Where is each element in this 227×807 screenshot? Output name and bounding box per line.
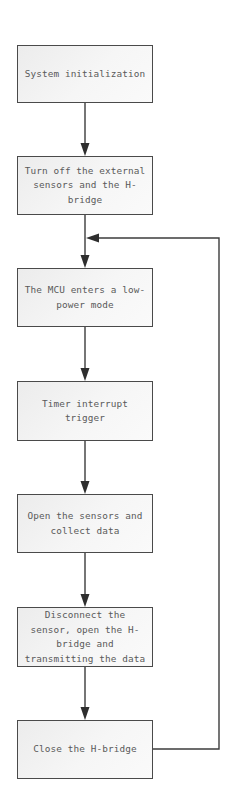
step-label: Timer interrupt trigger xyxy=(42,397,128,426)
step-label: System initialization xyxy=(25,67,146,82)
step-system-initialization: System initialization xyxy=(17,45,153,103)
step-label: Open the sensors and collect data xyxy=(28,509,143,538)
step-label: Turn off the external sensors and the H-… xyxy=(25,164,146,208)
arrow-n1-n2 xyxy=(81,103,90,156)
arrow-n2-n3 xyxy=(81,215,90,268)
arrow-n4-n5 xyxy=(81,441,90,494)
step-label: Close the H-bridge xyxy=(33,742,136,757)
step-transmit-data: Disconnect the sensor, open the H- bridg… xyxy=(17,607,153,667)
step-close-h-bridge: Close the H-bridge xyxy=(17,720,153,779)
arrow-n6-n7 xyxy=(81,667,90,720)
arrow-n5-n6 xyxy=(81,553,90,607)
step-timer-interrupt: Timer interrupt trigger xyxy=(17,381,153,441)
arrow-n3-n4 xyxy=(81,327,90,381)
step-low-power-mode: The MCU enters a low- power mode xyxy=(17,268,153,327)
step-turn-off-sensors: Turn off the external sensors and the H-… xyxy=(17,156,153,215)
flowchart: System initialization Turn off the exter… xyxy=(0,0,227,807)
step-label: The MCU enters a low- power mode xyxy=(25,283,146,312)
step-collect-data: Open the sensors and collect data xyxy=(17,494,153,553)
step-label: Disconnect the sensor, open the H- bridg… xyxy=(25,608,146,666)
